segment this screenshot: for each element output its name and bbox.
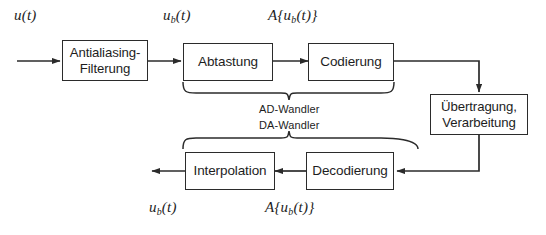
signal-quantized-bottom-A: A [265, 199, 274, 215]
da-wandler-brace [183, 131, 418, 149]
signal-label-output-ubt: ub(t) [149, 199, 177, 217]
block-antialiasing-line2: Filterung [70, 61, 141, 77]
signal-input-base: u [14, 7, 22, 23]
block-uebertragung-line1: Übertragung, [441, 99, 517, 115]
signal-label-filtered-ubt: ub(t) [163, 7, 191, 25]
block-interpolation-label: Interpolation [193, 163, 266, 179]
label-da-wandler: DA-Wandler [259, 119, 320, 131]
signal-output-arg: (t) [162, 199, 177, 215]
block-uebertragung-verarbeitung: Übertragung, Verarbeitung [430, 94, 528, 135]
block-decodierung: Decodierung [306, 152, 394, 190]
block-abtastung-label: Abtastung [198, 54, 258, 70]
arrow-codierung-to-uebertragung [393, 61, 479, 92]
block-codierung: Codierung [308, 43, 394, 81]
block-antialiasing-line1: Antialiasing- [70, 45, 141, 61]
signal-filtered-arg: (t) [176, 7, 191, 23]
signal-label-input-ut: u(t) [14, 7, 36, 24]
signal-quantized-top-arg: (t) [296, 7, 311, 23]
signal-output-base: u [149, 199, 157, 215]
brace-close-bottom: } [308, 199, 314, 215]
signal-filtered-base: u [163, 7, 171, 23]
signal-label-quantized-bottom: A{ub(t)} [265, 199, 314, 217]
label-ad-wandler: AD-Wandler [259, 103, 320, 115]
block-diagram-figure: Antialiasing- Filterung Abtastung Codier… [0, 0, 546, 235]
block-uebertragung-line2: Verarbeitung [441, 115, 517, 131]
block-interpolation: Interpolation [185, 152, 275, 190]
signal-label-quantized-top: A{ub(t)} [268, 7, 317, 25]
signal-quantized-top-A: A [268, 7, 277, 23]
block-antialiasing-filterung: Antialiasing- Filterung [62, 40, 148, 81]
ad-wandler-brace [183, 82, 394, 100]
block-codierung-label: Codierung [320, 54, 381, 70]
block-abtastung: Abtastung [183, 43, 273, 81]
block-decodierung-label: Decodierung [312, 163, 387, 179]
arrow-uebertragung-to-decodierung [397, 135, 479, 171]
signal-quantized-bottom-arg: (t) [293, 199, 308, 215]
brace-close-top: } [311, 7, 317, 23]
signal-input-arg: (t) [22, 7, 37, 23]
